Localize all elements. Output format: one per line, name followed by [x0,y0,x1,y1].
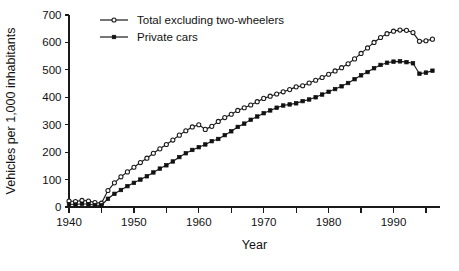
data-point-marker [74,203,78,207]
data-point-marker [430,37,434,41]
data-point-marker [125,170,129,174]
data-point-marker [184,129,188,133]
data-point-marker [385,61,389,64]
data-point-marker [340,66,344,70]
data-point-marker [417,39,421,43]
data-point-marker [307,81,311,85]
chart-legend: Total excluding two-wheelersPrivate cars [100,14,284,43]
data-point-marker [171,160,175,164]
y-tick-label: 100 [42,174,61,186]
data-point-marker [378,35,382,39]
legend-label: Total excluding two-wheelers [137,14,284,26]
x-tick-label: 1980 [316,216,342,228]
data-point-marker [119,188,123,192]
data-point-marker [333,87,337,91]
data-point-marker [112,181,116,185]
data-point-marker [392,60,396,64]
data-point-marker [411,31,415,35]
data-point-marker [139,178,143,182]
x-tick-label: 1950 [121,216,147,228]
y-axis-title: Vehicles per 1,000 inhabitants [4,28,18,195]
data-point-marker [268,109,272,113]
data-point-marker [314,96,318,100]
data-point-marker [145,156,149,160]
data-point-marker [391,29,395,33]
legend-label: Private cars [137,31,198,43]
data-point-marker [379,63,383,67]
line-chart: 0100200300400500600700 19401950196019701… [0,0,459,271]
data-point-marker [112,35,116,39]
data-point-marker [126,184,130,188]
data-point-marker [275,106,279,110]
y-tick-label: 400 [42,91,61,103]
data-point-marker [268,94,272,98]
y-tick-label: 300 [42,119,61,131]
data-point-marker [210,139,214,143]
data-point-marker [294,85,298,89]
data-point-marker [151,151,155,155]
legend-item: Total excluding two-wheelers [100,14,284,26]
data-point-marker [372,40,376,44]
data-point-marker [197,145,201,149]
data-point-marker [210,124,214,128]
axis-lines [69,15,440,207]
x-tick-label: 1940 [56,216,82,228]
data-point-marker [106,197,110,201]
data-point-marker [119,175,123,179]
y-tick-label: 0 [55,201,61,213]
data-point-marker [398,60,402,64]
series-total-excluding-two-wheelers [67,28,435,205]
data-point-marker [262,111,266,115]
x-axis-ticks: 194019501960197019801990 [56,207,426,228]
data-point-marker [223,133,227,137]
data-point-marker [307,98,311,102]
data-point-marker [281,90,285,94]
data-point-marker [242,122,246,126]
data-point-marker [327,90,331,94]
data-point-marker [158,167,162,171]
data-point-marker [106,188,110,192]
data-point-marker [398,28,402,32]
data-point-marker [93,203,97,207]
data-point-marker [353,57,357,61]
data-point-marker [294,102,298,106]
data-point-marker [353,77,357,81]
data-point-marker [171,138,175,142]
x-tick-label: 1970 [251,216,277,228]
data-point-marker [320,75,324,79]
data-point-marker [236,125,240,129]
data-point-marker [152,171,156,175]
data-point-marker [288,88,292,92]
data-point-marker [359,74,363,78]
y-tick-label: 700 [42,9,61,21]
data-point-marker [424,39,428,43]
data-point-marker [216,119,220,123]
data-point-marker [281,104,285,108]
data-point-marker [275,92,279,96]
data-point-marker [113,192,117,196]
data-point-marker [223,116,227,120]
data-point-marker [217,137,221,141]
data-point-marker [249,118,253,122]
data-point-marker [132,165,136,169]
data-point-marker [190,125,194,129]
x-axis-title: Year [242,238,267,252]
data-point-marker [191,148,195,152]
data-point-marker [230,130,234,134]
data-point-marker [197,123,201,127]
data-point-marker [184,151,188,155]
data-point-marker [87,203,91,207]
y-tick-label: 600 [42,36,61,48]
series-line [69,61,432,205]
data-point-marker [229,112,233,116]
data-point-marker [178,155,182,159]
data-point-marker [177,133,181,137]
data-point-marker [359,51,363,55]
data-point-marker [112,18,116,22]
data-point-marker [236,108,240,112]
chart-figure: 0100200300400500600700 19401950196019701… [0,0,459,271]
data-point-marker [424,71,428,75]
data-point-marker [80,202,84,206]
data-point-marker [67,203,71,207]
data-point-marker [346,62,350,66]
